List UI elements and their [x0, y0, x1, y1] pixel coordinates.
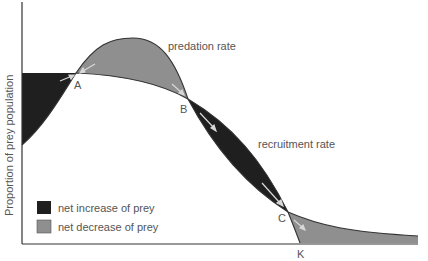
legend-swatch-decrease: [37, 220, 51, 233]
net-increase-regions: [22, 73, 288, 212]
legend: net increase of prey net decrease of pre…: [37, 201, 159, 233]
point-k-label: K: [297, 248, 305, 260]
legend-label-increase: net increase of prey: [58, 202, 155, 214]
point-a-label: A: [74, 79, 82, 91]
legend-label-decrease: net decrease of prey: [58, 221, 159, 233]
y-axis-label: Proportion of prey population: [3, 75, 15, 216]
decrease-region-tail: [288, 212, 418, 243]
recruitment-rate-label: recruitment rate: [258, 138, 335, 150]
point-b-label: B: [180, 103, 187, 115]
predation-rate-label: predation rate: [168, 40, 236, 52]
predation-recruitment-diagram: Proportion of prey population predation …: [0, 0, 428, 261]
legend-swatch-increase: [37, 201, 51, 214]
point-c-label: C: [278, 212, 286, 224]
recruitment-rate-curve: [22, 73, 300, 243]
increase-region-left: [22, 73, 76, 145]
